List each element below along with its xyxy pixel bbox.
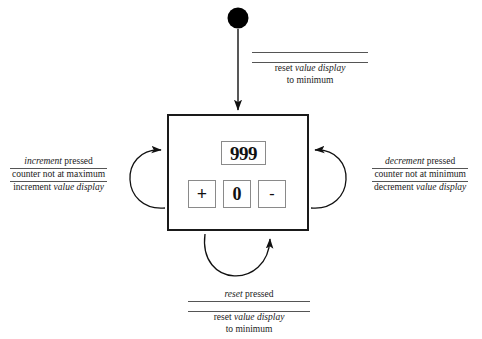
initial-transition-label: reset value display to minimum — [252, 43, 368, 87]
decrement-action-emphasis: value display — [416, 182, 466, 192]
increment-trigger-row: increment pressed — [10, 156, 107, 169]
initial-state-circle — [228, 8, 249, 29]
decrement-trigger-emphasis: decrement — [385, 156, 424, 166]
increment-transition-arrow — [130, 150, 165, 208]
reset-action-prefix: reset — [214, 312, 234, 322]
decrement-button[interactable]: - — [258, 180, 286, 208]
reset-action-row: reset value display — [188, 312, 310, 324]
reset-button[interactable]: 0 — [223, 180, 251, 208]
decrement-transition-label: decrement pressed counter not at minimum… — [372, 156, 468, 195]
reset-transition-arrow — [205, 234, 270, 276]
initial-action-prefix: reset — [275, 63, 295, 73]
reset-transition-label: reset pressed reset value display to min… — [188, 289, 310, 337]
decrement-action-prefix: decrement — [374, 182, 416, 192]
reset-guard-row — [188, 302, 310, 312]
reset-action-emphasis: value display — [234, 312, 284, 322]
reset-trigger-emphasis: reset — [225, 289, 243, 299]
statechart-diagram: 999 + 0 - reset value display to minimum… — [0, 0, 482, 339]
reset-trigger-row: reset pressed — [188, 289, 310, 302]
initial-guard-row — [252, 53, 368, 63]
decrement-trigger-row: decrement pressed — [372, 156, 468, 169]
increment-action-emphasis: value display — [54, 182, 104, 192]
value-display: 999 — [221, 141, 266, 165]
initial-action-emphasis: value display — [295, 63, 345, 73]
decrement-transition-arrow — [311, 150, 346, 208]
initial-action-row-2: to minimum — [252, 75, 368, 87]
increment-action-prefix: increment — [13, 182, 53, 192]
decrement-trigger-suffix: pressed — [424, 156, 455, 166]
decrement-action-row: decrement value display — [372, 182, 468, 194]
increment-trigger-suffix: pressed — [62, 156, 93, 166]
increment-trigger-emphasis: increment — [24, 156, 62, 166]
increment-guard-row: counter not at maximum — [10, 169, 107, 182]
reset-action-row-2: to minimum — [188, 324, 310, 336]
counter-widget-state: 999 + 0 - — [167, 114, 309, 231]
increment-transition-label: increment pressed counter not at maximum… — [10, 156, 107, 195]
widget-button-row: + 0 - — [188, 180, 286, 208]
decrement-guard-row: counter not at minimum — [372, 169, 468, 182]
increment-button[interactable]: + — [188, 180, 216, 208]
initial-action-row: reset value display — [252, 63, 368, 75]
increment-action-row: increment value display — [10, 182, 107, 194]
reset-trigger-suffix: pressed — [243, 289, 274, 299]
initial-trigger-row — [252, 43, 368, 53]
